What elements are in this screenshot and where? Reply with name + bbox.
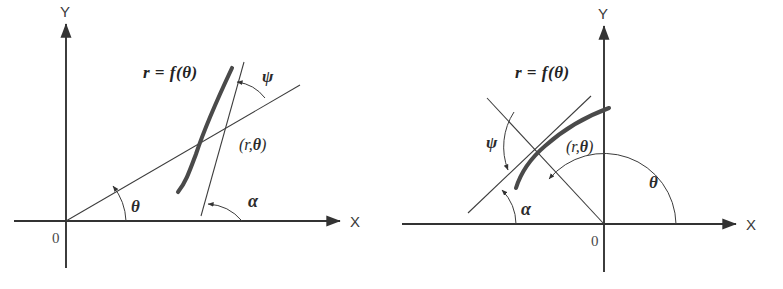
polar-curve xyxy=(178,68,232,192)
angle-theta-arc xyxy=(113,186,126,221)
angle-psi-label: ψ xyxy=(486,133,498,152)
polar-curve xyxy=(516,108,609,188)
point-label: (r,θ) xyxy=(566,138,593,156)
angle-alpha-arc xyxy=(208,204,242,221)
angle-theta-label: θ xyxy=(649,173,658,192)
point-label-close: ) xyxy=(587,138,593,156)
point-label-close: ) xyxy=(260,136,266,154)
y-axis-label: Y xyxy=(598,5,608,22)
y-axis-label: Y xyxy=(60,3,70,20)
angle-psi-arc xyxy=(504,112,514,170)
angle-psi-label: ψ xyxy=(262,67,274,86)
angle-alpha-label: α xyxy=(248,191,259,211)
x-axis-label: X xyxy=(746,216,756,233)
point-label: (r,θ) xyxy=(239,136,266,154)
angle-psi-arc xyxy=(237,82,265,98)
origin-label: 0 xyxy=(52,230,60,246)
origin-label: 0 xyxy=(591,233,599,249)
curve-equation-label: r = f(θ) xyxy=(515,63,570,82)
angle-alpha-label: α xyxy=(521,199,532,219)
diagram-panel-right: Y X 0 θ α ψ r = f(θ) xyxy=(391,0,783,289)
radius-vector-line xyxy=(66,85,300,221)
angle-alpha-arc xyxy=(502,190,516,224)
diagram-panel-left: Y X 0 θ α ψ r = f(θ) xyxy=(0,0,391,289)
figure-root: Y X 0 θ α ψ r = f(θ) xyxy=(0,0,783,289)
x-axis-label: X xyxy=(350,213,360,230)
angle-theta-label: θ xyxy=(131,197,140,216)
curve-equation-label: r = f(θ) xyxy=(143,63,198,82)
